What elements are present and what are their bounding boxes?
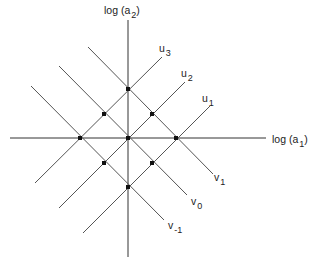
x-label-sub: 1 xyxy=(299,139,304,149)
y-label-close: ) xyxy=(136,4,140,16)
u1-sub: 1 xyxy=(209,98,214,108)
lattice-diagram xyxy=(0,0,318,261)
v-1-label: v-1 xyxy=(168,220,182,231)
u2-label: u2 xyxy=(181,68,193,79)
v0-line xyxy=(59,66,187,195)
u3-line xyxy=(35,57,162,183)
u1-label: u1 xyxy=(202,93,214,104)
u1-line xyxy=(83,106,210,233)
v-1-line xyxy=(31,86,164,220)
u1-name: u xyxy=(202,92,208,104)
v1-line xyxy=(88,47,213,174)
u2-line xyxy=(59,82,185,208)
v-1-sub: -1 xyxy=(174,225,182,235)
u3-label: u3 xyxy=(159,43,171,54)
v1-sub: 1 xyxy=(220,177,225,187)
v0-sub: 0 xyxy=(197,201,202,211)
v-1-name: v xyxy=(168,219,173,231)
y-axis-label: log (a2) xyxy=(104,5,140,16)
u3-sub: 3 xyxy=(166,48,171,58)
u3-name: u xyxy=(159,42,165,54)
y-label-sub: 2 xyxy=(131,10,136,20)
x-label-close: ) xyxy=(304,133,308,145)
u2-sub: 2 xyxy=(188,73,193,83)
v1-name: v xyxy=(214,171,219,183)
x-axis-label: log (a1) xyxy=(272,134,308,145)
y-label-text: log (a xyxy=(104,4,130,16)
u2-name: u xyxy=(181,67,187,79)
v0-label: v0 xyxy=(191,196,202,207)
v1-label: v1 xyxy=(214,172,225,183)
x-label-text: log (a xyxy=(272,133,298,145)
v0-name: v xyxy=(191,195,196,207)
